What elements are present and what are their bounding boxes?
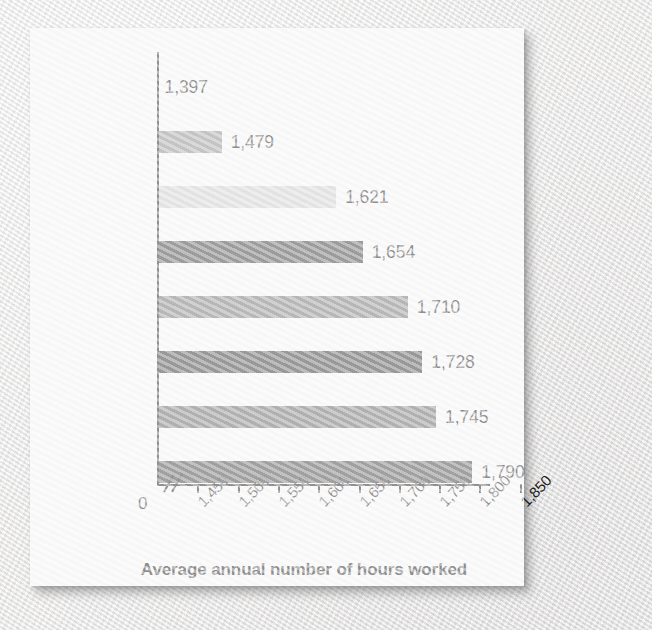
bar [158, 406, 436, 428]
x-axis-title-text: Average annual number of hours worked [87, 560, 467, 580]
figure-card: Germany 1,397 France 1,479 Sweden 1,621 … [30, 28, 524, 586]
bar-value-label: 1,728 [431, 351, 474, 373]
bar-value-label: 1,745 [445, 406, 488, 428]
x-axis-origin-label: 0 [138, 494, 147, 514]
bar [158, 351, 422, 373]
bar [158, 131, 222, 153]
axis-break-icon [161, 472, 187, 494]
bar [158, 241, 363, 263]
bar-value-label: 1,621 [345, 186, 388, 208]
y-axis-line [157, 52, 159, 485]
bar-value-label: 1,654 [372, 241, 415, 263]
bar-chart-plot-area: Germany 1,397 France 1,479 Sweden 1,621 … [30, 28, 524, 586]
bar-value-label: 1,710 [417, 296, 460, 318]
x-axis-title: Average annual number of hours worked [30, 560, 524, 580]
bar-value-label: 1,479 [231, 131, 274, 153]
bar-value-label: 1,397 [165, 76, 208, 98]
bar [158, 186, 336, 208]
bar [158, 296, 408, 318]
